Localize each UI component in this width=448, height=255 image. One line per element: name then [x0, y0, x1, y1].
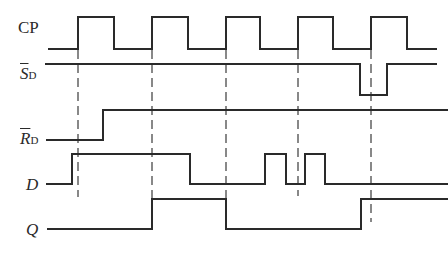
- signal-label-sd-bar: SD: [20, 65, 36, 82]
- waveform-sd: [45, 64, 437, 95]
- waveform-q: [47, 199, 448, 229]
- figure-caption-faded: [0, 244, 448, 255]
- dashed-clock-edge-guides: [78, 50, 371, 228]
- waveform-d: [46, 154, 448, 184]
- timing-diagram: [0, 0, 448, 255]
- signal-label-d: D: [26, 176, 38, 193]
- signal-label-q: Q: [26, 221, 38, 238]
- waveform-cp: [48, 17, 437, 49]
- signal-label-rd-bar: RD: [20, 130, 38, 147]
- signal-label-cp: CP: [18, 19, 39, 36]
- waveform-rd: [46, 110, 448, 140]
- waveforms: [45, 17, 448, 229]
